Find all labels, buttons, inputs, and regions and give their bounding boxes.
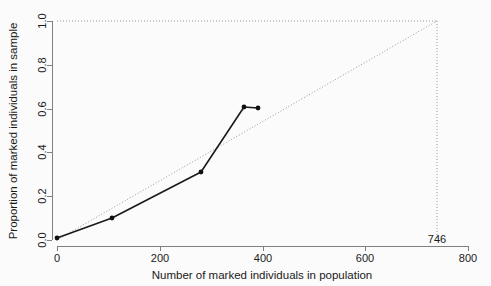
- x-tick-label: 200: [151, 252, 169, 264]
- y-axis-title: Proportion of marked individuals in samp…: [7, 23, 19, 240]
- y-tick-label: 0.0: [36, 232, 48, 247]
- reference-diagonal-line: [57, 21, 437, 240]
- y-axis-group: 0.0 0.2 0.4 0.6 0.8 1.0 Proportion of ma…: [7, 13, 52, 247]
- x-tick-label: 600: [356, 252, 374, 264]
- population-estimate-label: 746: [428, 233, 446, 245]
- data-point: [242, 105, 247, 110]
- x-axis-group: 0 200 400 600 800 746 Number of marked i…: [54, 233, 477, 281]
- x-axis-title: Number of marked individuals in populati…: [152, 269, 373, 281]
- data-point: [199, 170, 204, 175]
- plot-canvas: 0.0 0.2 0.4 0.6 0.8 1.0 Proportion of ma…: [0, 0, 491, 286]
- data-point: [256, 106, 261, 111]
- y-tick-label: 0.8: [36, 57, 48, 72]
- y-tick-label: 1.0: [36, 13, 48, 28]
- observed-proportion-line: [57, 107, 258, 238]
- x-tick-label: 400: [254, 252, 272, 264]
- observed-series-group: [55, 105, 261, 241]
- y-tick-label: 0.2: [36, 188, 48, 203]
- reference-lines-group: [57, 21, 437, 240]
- y-tick-label: 0.6: [36, 101, 48, 116]
- y-tick-label: 0.4: [36, 144, 48, 159]
- x-tick-label: 800: [459, 252, 477, 264]
- chart-figure: 0.0 0.2 0.4 0.6 0.8 1.0 Proportion of ma…: [0, 0, 491, 286]
- data-point: [55, 236, 60, 241]
- data-point: [110, 216, 115, 221]
- x-tick-label: 0: [54, 252, 60, 264]
